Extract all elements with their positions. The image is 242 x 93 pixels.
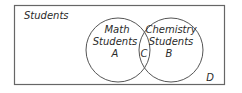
- region-b-label: B: [166, 48, 173, 59]
- outside-label: D: [206, 72, 214, 83]
- venn-diagram: Students Math Students A Chemistry Stude…: [0, 0, 242, 93]
- set-b-title-line2: Students: [149, 36, 194, 47]
- set-b-title-line1: Chemistry: [145, 24, 197, 35]
- intersection-label: C: [141, 48, 148, 59]
- set-a-title-line1: Math: [104, 24, 129, 35]
- set-a-title-line2: Students: [93, 36, 138, 47]
- universe-label: Students: [24, 10, 69, 21]
- region-a-label: A: [111, 48, 119, 59]
